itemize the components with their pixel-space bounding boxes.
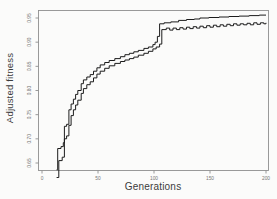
best-fitness-curve <box>57 15 266 170</box>
x-tick-label: 0 <box>41 176 44 181</box>
y-tick-label: 0.65 <box>27 158 32 168</box>
y-tick-label: 0.95 <box>27 13 32 23</box>
plot-box <box>39 11 269 171</box>
y-tick-label: 0.75 <box>27 110 32 120</box>
y-tick-label: 0.85 <box>27 61 32 71</box>
plot-area: 0501001502000.650.700.750.800.850.900.95 <box>0 0 277 199</box>
fitness-chart-figure: 0501001502000.650.700.750.800.850.900.95… <box>0 0 277 199</box>
x-tick-label: 150 <box>206 176 214 181</box>
x-tick-label: 200 <box>262 176 270 181</box>
y-tick-label: 0.70 <box>27 134 32 144</box>
x-axis-title: Generations <box>38 181 268 192</box>
mean-fitness-curve <box>57 23 266 178</box>
x-tick-label: 50 <box>95 176 101 181</box>
y-tick-label: 0.80 <box>27 86 32 96</box>
y-tick-label: 0.90 <box>27 37 32 47</box>
y-axis-title: Adjusted fitness <box>4 53 15 123</box>
x-tick-label: 100 <box>150 176 158 181</box>
